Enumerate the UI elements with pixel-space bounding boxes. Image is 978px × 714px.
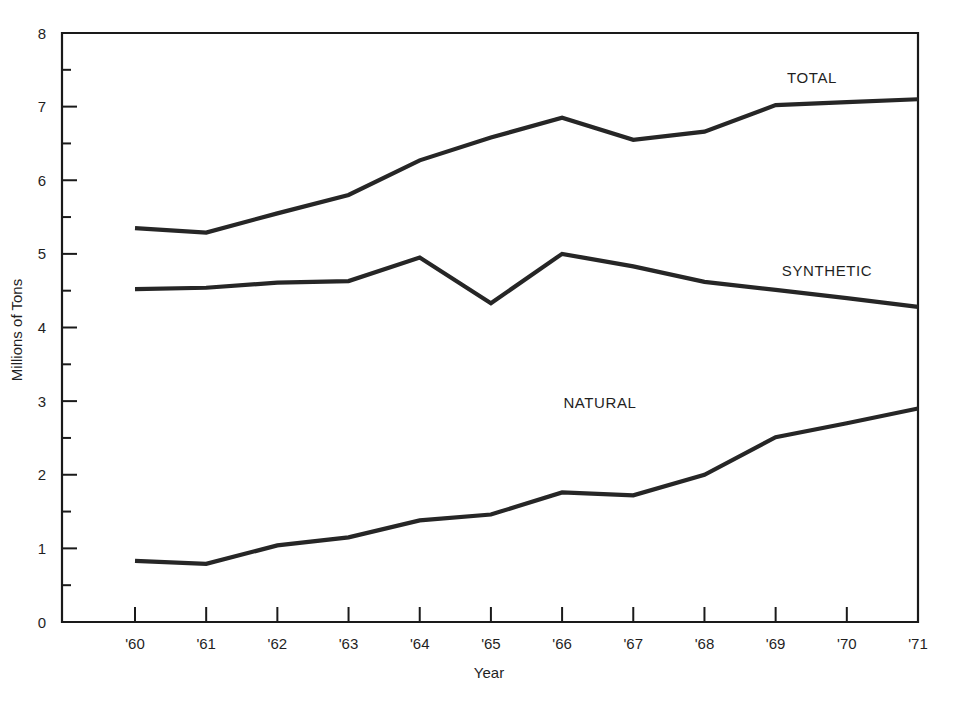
y-axis-title: Millions of Tons [8, 279, 25, 381]
series-label-natural: NATURAL [563, 394, 636, 411]
y-tick-label: 6 [38, 172, 46, 189]
y-tick-label: 1 [38, 540, 46, 557]
x-tick-label: '60 [125, 635, 145, 652]
x-tick-label: '63 [339, 635, 359, 652]
series-label-synthetic: SYNTHETIC [782, 262, 872, 279]
chart-background [0, 0, 978, 714]
y-tick-label: 3 [38, 393, 46, 410]
series-label-total: TOTAL [787, 69, 837, 86]
y-tick-label: 7 [38, 98, 46, 115]
x-axis-title: Year [474, 664, 504, 681]
y-tick-label: 8 [38, 25, 46, 42]
x-tick-label: '70 [837, 635, 857, 652]
x-tick-label: '62 [268, 635, 288, 652]
x-tick-label: '68 [695, 635, 715, 652]
y-tick-label: 0 [38, 614, 46, 631]
line-chart: 012345678 '60'61'62'63'64'65'66'67'68'69… [0, 0, 978, 714]
x-tick-label: '61 [196, 635, 216, 652]
y-tick-label: 2 [38, 466, 46, 483]
x-tick-label: '67 [623, 635, 643, 652]
x-tick-label: '66 [552, 635, 572, 652]
x-tick-label: '64 [410, 635, 430, 652]
chart-container: 012345678 '60'61'62'63'64'65'66'67'68'69… [0, 0, 978, 714]
y-tick-label: 4 [38, 319, 46, 336]
y-tick-label: 5 [38, 245, 46, 262]
x-tick-label: '65 [481, 635, 501, 652]
x-tick-label: '69 [766, 635, 786, 652]
x-tick-label: '71 [908, 635, 928, 652]
